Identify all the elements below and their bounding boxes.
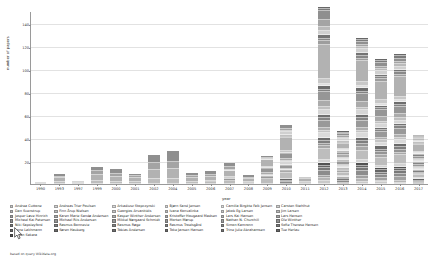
bar-slot[interactable]: 2010 <box>277 12 296 184</box>
bar-segment[interactable] <box>261 160 273 167</box>
stacked-bar[interactable] <box>167 151 179 184</box>
legend-swatch-icon <box>112 215 115 218</box>
bar-segment[interactable] <box>356 121 368 128</box>
bar-segment[interactable] <box>280 138 292 151</box>
stacked-bar[interactable] <box>375 59 387 184</box>
bar-segment[interactable] <box>375 110 387 117</box>
legend-item-label: Lone Lakhmann <box>15 229 42 233</box>
bar-slot[interactable]: 2016 <box>390 12 409 184</box>
legend-item[interactable]: Toke Jansen Hansen <box>165 229 217 233</box>
bar-slot[interactable]: 2011 <box>296 12 315 184</box>
x-axis-title: year <box>222 196 230 201</box>
legend-column: Andreas Trier PoulsenFinn Årup NielsenKa… <box>54 205 108 253</box>
stacked-bar[interactable] <box>148 155 160 184</box>
legend-item[interactable]: Trine Julie Abrahamsen <box>221 229 272 233</box>
bar-slot[interactable]: 2017 <box>409 12 428 184</box>
bar-slot[interactable]: 1997 <box>69 12 88 184</box>
x-axis-tick-label: 1993 <box>55 187 64 191</box>
bar-slot[interactable]: 2009 <box>258 12 277 184</box>
bar-slot[interactable]: 2013 <box>334 12 353 184</box>
bar-slot[interactable]: 2000 <box>107 12 126 184</box>
stacked-bar[interactable] <box>205 171 217 184</box>
legend-item[interactable]: Tue Herlau <box>276 229 318 233</box>
bar-segment[interactable] <box>318 149 330 159</box>
bar-segment[interactable] <box>356 151 368 160</box>
legend-item[interactable]: Finn Årup Nielsen <box>54 210 108 214</box>
bar-slot[interactable]: 2005 <box>182 12 201 184</box>
stacked-bar[interactable] <box>129 174 141 184</box>
bar-segment[interactable] <box>167 151 179 163</box>
bar-slot[interactable]: 2001 <box>126 12 145 184</box>
bar-segment[interactable] <box>356 61 368 82</box>
y-axis-title: number of papers <box>6 10 10 70</box>
y-axis-tick-label: 140 <box>22 23 29 27</box>
stacked-bar[interactable] <box>224 163 236 184</box>
legend-item[interactable]: Johan Sakara <box>10 234 50 238</box>
legend-swatch-icon <box>54 229 57 232</box>
stacked-bar[interactable] <box>280 125 292 184</box>
bar-slot[interactable]: 2006 <box>201 12 220 184</box>
legend-item[interactable]: Lone Lakhmann <box>10 229 50 233</box>
legend-item[interactable]: Georgios Arvanitidis <box>112 210 160 214</box>
bar-segment[interactable] <box>148 163 160 170</box>
bar-segment[interactable] <box>375 158 387 166</box>
stacked-bar[interactable] <box>186 173 198 185</box>
bar-segment[interactable] <box>356 94 368 102</box>
stacked-bar[interactable] <box>394 54 406 184</box>
legend-item[interactable]: Jim Larsen <box>276 210 318 214</box>
stacked-bar[interactable] <box>299 177 311 184</box>
x-axis-tick-label: 2005 <box>187 187 196 191</box>
bar-segment[interactable] <box>318 45 330 80</box>
bar-slot[interactable]: 2007 <box>220 12 239 184</box>
stacked-bar[interactable] <box>337 131 349 184</box>
bar-slot[interactable]: 2015 <box>371 12 390 184</box>
bar-segment[interactable] <box>318 121 330 128</box>
bar-slot[interactable]: 2008 <box>239 12 258 184</box>
stacked-bar[interactable] <box>91 167 103 184</box>
bar-segment[interactable] <box>148 155 160 163</box>
y-axis-tick-label: 100 <box>22 69 29 73</box>
stacked-bar[interactable] <box>413 135 425 184</box>
bar-segment[interactable] <box>318 92 330 101</box>
bar-slot[interactable]: 1999 <box>88 12 107 184</box>
bar-segment[interactable] <box>413 145 425 152</box>
legend-item-label: Tue Herlau <box>281 229 299 233</box>
stacked-bar[interactable] <box>261 156 273 184</box>
bar-segment[interactable] <box>280 173 292 180</box>
x-axis-tick-label: 2014 <box>357 187 366 191</box>
stacked-bar[interactable] <box>110 169 122 184</box>
bar-slot[interactable]: 1993 <box>50 12 69 184</box>
bar-segment[interactable] <box>318 20 330 27</box>
stacked-bar[interactable] <box>54 174 66 184</box>
bar-segment[interactable] <box>167 162 179 169</box>
bar-slot[interactable]: 2012 <box>315 12 334 184</box>
legend-item[interactable]: Dan Svenstrup <box>10 210 50 214</box>
stacked-bar[interactable] <box>356 38 368 184</box>
bar-slot[interactable]: 2004 <box>163 12 182 184</box>
bar-segment[interactable] <box>318 11 330 20</box>
bar-segment[interactable] <box>394 155 406 164</box>
legend-swatch-icon <box>221 219 224 222</box>
x-axis-tick-label: 2002 <box>149 187 158 191</box>
legend-item[interactable]: Jakob Eg Larsen <box>221 210 272 214</box>
legend-swatch-icon <box>165 205 168 208</box>
legend-item-label: Tobias Andersen <box>117 229 145 233</box>
legend-item[interactable]: Søren Hauberg <box>54 229 108 233</box>
legend-item[interactable]: Tobias Andersen <box>112 229 160 233</box>
legend-item[interactable]: Ivana Konvalinka <box>165 210 217 214</box>
legend-item-label: Trine Julie Abrahamsen <box>226 229 265 233</box>
x-axis-tick-label: 2000 <box>112 187 121 191</box>
stacked-bar[interactable] <box>243 175 255 184</box>
legend-swatch-icon <box>276 224 279 227</box>
bar-segment[interactable] <box>167 169 179 179</box>
bar-slot[interactable]: 2002 <box>144 12 163 184</box>
bar-slot[interactable]: 2014 <box>352 12 371 184</box>
legend-item-label: Ivana Konvalinka <box>170 210 199 214</box>
bar-segment[interactable] <box>148 170 160 179</box>
bar-slot[interactable]: 1990 <box>31 12 50 184</box>
stacked-bar[interactable] <box>318 7 330 184</box>
bar-segment[interactable] <box>394 107 406 114</box>
bar-segment[interactable] <box>375 82 387 100</box>
bar-segment[interactable] <box>394 77 406 97</box>
legend-swatch-icon <box>54 224 57 227</box>
